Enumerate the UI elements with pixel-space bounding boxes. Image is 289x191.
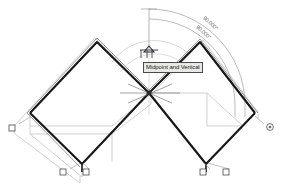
osnap-tooltip: Midpoint and Vertical: [143, 62, 203, 73]
cad-drawing-canvas[interactable]: 90.000° 90.000° Midpoint and Vertical: [0, 0, 289, 191]
grip-right-east-dot: [269, 126, 272, 129]
construction-wireframe: [14, 8, 258, 183]
right-solid[interactable]: [149, 39, 258, 172]
grip-bottom-left-a: [60, 169, 66, 175]
grip-bottom-right-b: [223, 169, 229, 175]
grip-bottom-right-a: [200, 169, 206, 175]
center-vertex-marker: [120, 84, 180, 103]
grip-left-west: [9, 125, 15, 131]
cad-vector-layer: [0, 0, 289, 191]
grip-bottom-left-b: [83, 169, 89, 175]
left-solid[interactable]: [27, 38, 152, 172]
